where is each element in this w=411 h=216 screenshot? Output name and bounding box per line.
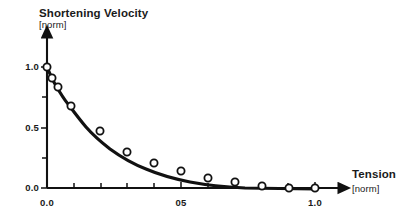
data-point: [48, 74, 55, 81]
data-point: [177, 167, 184, 174]
data-point: [67, 102, 74, 109]
axis-lines: [47, 36, 340, 188]
data-point: [285, 184, 292, 191]
force-velocity-chart: Shortening Velocity [norm] Tension [norm…: [0, 0, 411, 216]
data-point: [123, 148, 130, 155]
data-point: [258, 182, 265, 189]
data-point: [150, 159, 157, 166]
data-point: [43, 63, 50, 70]
data-point: [54, 83, 61, 90]
data-point: [231, 178, 238, 185]
data-point: [96, 127, 103, 134]
data-point: [204, 174, 211, 181]
data-point: [311, 184, 318, 191]
plot-area: [0, 0, 411, 216]
